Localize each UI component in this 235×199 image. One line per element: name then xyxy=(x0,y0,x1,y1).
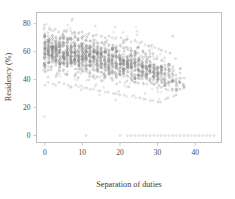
data-point xyxy=(177,85,179,87)
data-point xyxy=(139,97,141,99)
data-point xyxy=(59,76,61,78)
data-point xyxy=(115,36,117,38)
data-point xyxy=(84,52,86,54)
data-point xyxy=(144,56,146,58)
data-point xyxy=(108,35,110,37)
data-point xyxy=(77,77,79,79)
x-tick-label: 10 xyxy=(79,148,87,157)
data-point xyxy=(118,90,120,92)
data-point xyxy=(116,93,118,95)
data-point xyxy=(182,85,184,87)
data-point xyxy=(175,135,177,137)
data-point xyxy=(133,55,135,57)
data-point xyxy=(160,135,162,137)
data-point xyxy=(47,35,49,37)
data-point xyxy=(172,68,174,70)
data-point xyxy=(64,50,66,52)
data-point xyxy=(70,65,72,67)
data-point xyxy=(165,98,167,100)
data-point xyxy=(156,87,158,89)
data-point xyxy=(183,77,185,79)
data-point xyxy=(126,80,128,82)
data-point xyxy=(55,64,57,66)
data-point xyxy=(120,37,122,39)
data-point xyxy=(45,60,47,62)
scatter-plot-figure: 010203040 020406080 Separation of duties… xyxy=(0,0,235,199)
data-point xyxy=(115,77,117,79)
data-point xyxy=(122,32,124,34)
data-point xyxy=(168,72,170,74)
data-point xyxy=(187,135,189,137)
data-point xyxy=(44,116,46,118)
data-point xyxy=(99,76,101,78)
data-point xyxy=(143,84,145,86)
data-point xyxy=(75,72,77,74)
data-point xyxy=(47,81,49,83)
data-point xyxy=(113,93,115,95)
data-point xyxy=(62,32,64,34)
data-point xyxy=(202,135,204,137)
data-point xyxy=(124,55,126,57)
data-point xyxy=(99,94,101,96)
data-point xyxy=(107,91,109,93)
data-point xyxy=(94,78,96,80)
data-point xyxy=(86,87,88,89)
axes-frame xyxy=(37,13,222,143)
data-point xyxy=(151,81,153,83)
data-point xyxy=(149,135,151,137)
data-point xyxy=(75,57,77,59)
data-point xyxy=(106,39,108,41)
data-point xyxy=(160,49,162,51)
data-point xyxy=(80,85,82,87)
data-point xyxy=(172,35,174,37)
data-point xyxy=(131,95,133,97)
data-point xyxy=(59,73,61,75)
data-point xyxy=(47,69,49,71)
data-point xyxy=(213,135,215,137)
data-point xyxy=(160,91,162,93)
data-point xyxy=(80,37,82,39)
data-point xyxy=(70,30,72,32)
data-point xyxy=(87,34,89,36)
data-point xyxy=(100,35,102,37)
data-point xyxy=(129,83,131,85)
data-point xyxy=(81,31,83,33)
data-point xyxy=(135,97,137,99)
data-point xyxy=(181,77,183,79)
data-point xyxy=(56,72,58,74)
x-tick-label: 40 xyxy=(191,148,199,157)
data-point xyxy=(95,34,97,36)
y-axis-ticks: 020406080 xyxy=(23,19,37,140)
data-point xyxy=(182,88,184,90)
data-point xyxy=(142,50,144,52)
data-point xyxy=(149,50,151,52)
data-point xyxy=(62,34,64,36)
data-point xyxy=(136,31,138,33)
data-point xyxy=(58,81,60,83)
data-point xyxy=(136,34,138,36)
data-point xyxy=(160,101,162,103)
data-point xyxy=(134,135,136,137)
data-point xyxy=(160,75,162,77)
data-point xyxy=(119,81,121,83)
data-point xyxy=(63,65,65,67)
data-point xyxy=(127,135,129,137)
data-point xyxy=(47,32,49,34)
data-point xyxy=(63,83,65,85)
data-point xyxy=(85,135,87,137)
data-point xyxy=(168,135,170,137)
data-point xyxy=(82,87,84,89)
data-point xyxy=(209,135,211,137)
data-point xyxy=(126,35,128,37)
data-point xyxy=(73,63,75,65)
data-point xyxy=(173,95,175,97)
data-point xyxy=(109,77,111,79)
data-point xyxy=(165,51,167,53)
data-point xyxy=(122,56,124,58)
data-point xyxy=(75,84,77,86)
data-point xyxy=(104,37,106,39)
data-point xyxy=(119,94,121,96)
data-point xyxy=(44,84,46,86)
data-point xyxy=(144,93,146,95)
data-point xyxy=(137,66,139,68)
